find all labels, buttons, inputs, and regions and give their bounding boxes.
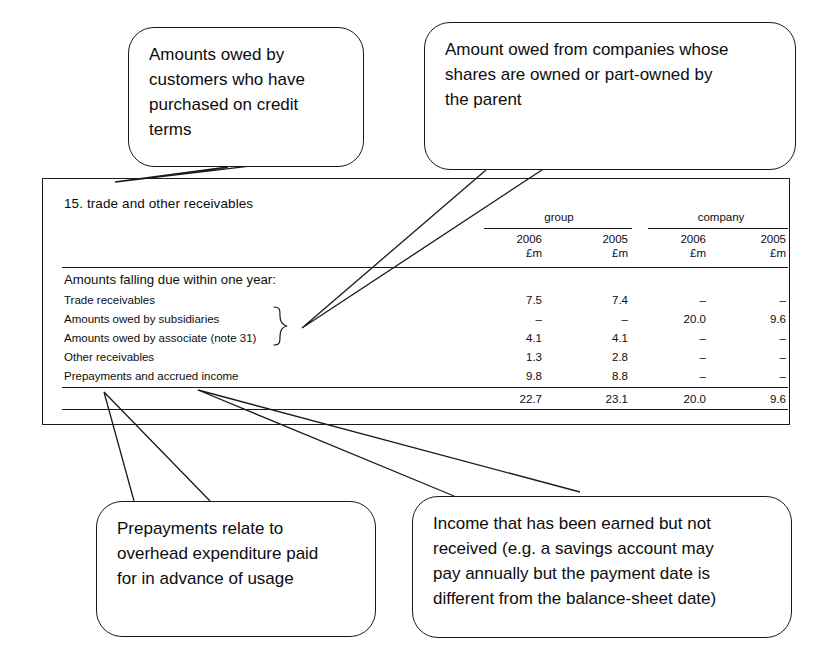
table-cell: 2.8 — [556, 350, 628, 364]
table-cell: 4.1 — [470, 331, 542, 345]
total-cell: 9.6 — [714, 392, 786, 406]
table-cell: 9.8 — [470, 369, 542, 383]
table-cell: – — [714, 293, 786, 307]
callout-line: terms — [149, 117, 345, 142]
table-cell: – — [714, 331, 786, 345]
callout-trade-receivables: Amounts owed by customers who have purch… — [128, 27, 364, 167]
table-row-label: Amounts owed by associate (note 31) — [64, 331, 256, 345]
callout-line: shares are owned or part-owned by — [445, 62, 777, 87]
table-cell: 7.5 — [470, 293, 542, 307]
table-row-label: Amounts owed by subsidiaries — [64, 312, 219, 326]
column-header-unit: £m — [714, 246, 786, 260]
table-cell: – — [634, 293, 706, 307]
callout-line: for in advance of usage — [117, 566, 357, 591]
callout-line: overhead expenditure paid — [117, 541, 357, 566]
callout-line: purchased on credit — [149, 92, 345, 117]
column-header-year: 2005 — [556, 232, 628, 246]
column-header-year: 2005 — [714, 232, 786, 246]
table-row-label: Trade receivables — [64, 293, 155, 307]
table-row-label: Prepayments and accrued income — [64, 369, 239, 383]
column-header-unit: £m — [470, 246, 542, 260]
table-row-label: Other receivables — [64, 350, 154, 364]
table-cell: 20.0 — [634, 312, 706, 326]
table-cell: 1.3 — [470, 350, 542, 364]
table-cell: 4.1 — [556, 331, 628, 345]
table-cell: – — [634, 369, 706, 383]
total-cell: 20.0 — [634, 392, 706, 406]
callout-accrued-income: Income that has been earned but not rece… — [412, 496, 792, 638]
column-header-company-2005: 2005 £m — [714, 232, 786, 260]
column-header-group-2005: 2005 £m — [556, 232, 628, 260]
column-header-year: 2006 — [634, 232, 706, 246]
rule-under-company — [648, 228, 788, 229]
section-label: Amounts falling due within one year: — [64, 273, 276, 287]
callout-line: Amount owed from companies whose — [445, 37, 777, 62]
table-cell: 7.4 — [556, 293, 628, 307]
column-header-year: 2006 — [470, 232, 542, 246]
table-cell: 8.8 — [556, 369, 628, 383]
rule-under-group — [484, 228, 632, 229]
table-cell: – — [556, 312, 628, 326]
table-cell: 9.6 — [714, 312, 786, 326]
callout-line: Amounts owed by — [149, 42, 345, 67]
column-header-company-2006: 2006 £m — [634, 232, 706, 260]
note-heading: 15. trade and other receivables — [64, 196, 253, 211]
annotated-note-figure: 15. trade and other receivables group co… — [0, 0, 835, 653]
callout-intercompany: Amount owed from companies whose shares … — [424, 22, 796, 170]
table-cell: – — [634, 331, 706, 345]
table-cell: – — [634, 350, 706, 364]
total-cell: 22.7 — [470, 392, 542, 406]
total-cell: 23.1 — [556, 392, 628, 406]
callout-line: pay annually but the payment date is — [433, 561, 773, 586]
rule-above-total — [62, 387, 788, 388]
callout-line: Prepayments relate to — [117, 516, 357, 541]
column-header-group-2006: 2006 £m — [470, 232, 542, 260]
table-cell: – — [470, 312, 542, 326]
callout-line: the parent — [445, 87, 777, 112]
callout-prepayments: Prepayments relate to overhead expenditu… — [96, 501, 376, 637]
column-header-unit: £m — [556, 246, 628, 260]
column-group-header-group: group — [484, 211, 634, 223]
table-cell: – — [714, 350, 786, 364]
column-group-header-company: company — [646, 211, 796, 223]
rule-header-bottom — [62, 267, 788, 268]
callout-line: Income that has been earned but not — [433, 511, 773, 536]
rule-below-total — [62, 409, 788, 410]
callout-line: received (e.g. a savings account may — [433, 536, 773, 561]
callout-line: customers who have — [149, 67, 345, 92]
table-cell: – — [714, 369, 786, 383]
column-header-unit: £m — [634, 246, 706, 260]
callout-line: different from the balance-sheet date) — [433, 586, 773, 611]
